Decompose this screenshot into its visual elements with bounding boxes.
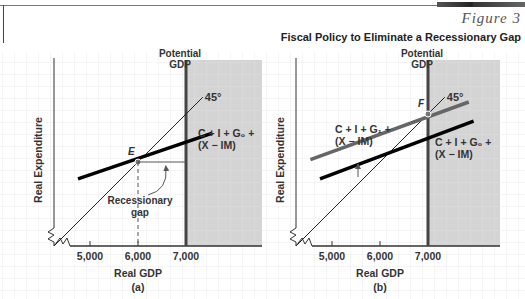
equilibrium-point — [425, 111, 431, 117]
series-label-g1-line1: C + I + G₁ + — [335, 123, 391, 135]
x-axis-label: Real GDP — [356, 267, 404, 279]
y-axis-label: Real Expenditure — [274, 117, 286, 203]
potential-gdp-label-line1: Potential — [401, 48, 443, 59]
x-axis-label: Real GDP — [114, 267, 162, 279]
x-tick-label: 7,000 — [415, 250, 441, 262]
label-45-degree: 45° — [205, 91, 222, 103]
label-45-degree: 45° — [447, 91, 464, 103]
potential-gdp-label-line2: GDP — [169, 59, 191, 70]
series-label-g0-line2: (X − IM) — [435, 148, 473, 160]
potential-gdp-label-line1: Potential — [159, 48, 201, 59]
y-axis-label: Real Expenditure — [32, 117, 44, 203]
shaded-region — [186, 60, 262, 246]
x-tick-label: 5,000 — [319, 250, 345, 262]
series-label-g0-line2: (X − IM) — [198, 139, 236, 151]
x-tick-label: 6,000 — [125, 250, 151, 262]
equilibrium-label: E — [128, 146, 135, 157]
series-label-g1-line2: (X − IM) — [335, 135, 373, 147]
x-tick-label: 6,000 — [367, 250, 393, 262]
recessionary-gap-label-line1: Recessionary — [107, 195, 172, 206]
recessionary-gap-label-line2: gap — [131, 207, 149, 218]
series-label-g0-line1: C + I + G₀ + — [198, 127, 254, 139]
panel-label: (b) — [373, 281, 386, 293]
x-tick-label: 7,000 — [173, 250, 199, 262]
series-label-g0-line1: C + I + G₀ + — [435, 136, 491, 148]
x-tick-label: 5,000 — [77, 250, 103, 262]
chart-canvas: 5,0006,0007,000PotentialGDP45°ERecession… — [0, 0, 525, 299]
potential-gdp-label-line2: GDP — [411, 59, 433, 70]
equilibrium-label: F — [418, 98, 425, 109]
panel-label: (a) — [132, 281, 145, 293]
